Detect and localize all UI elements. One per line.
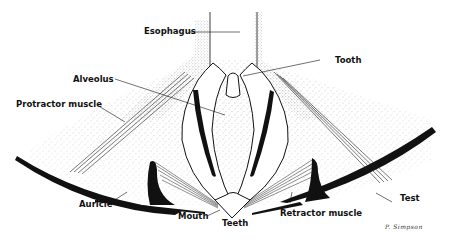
label-mouth: Mouth — [178, 212, 208, 221]
artist-signature: P. Simpson — [385, 223, 423, 230]
label-tooth: Tooth — [335, 56, 361, 65]
label-retractor-muscle: Retractor muscle — [280, 209, 362, 218]
esophagus — [210, 12, 257, 68]
label-alveolus: Alveolus — [73, 75, 114, 84]
label-test: Test — [400, 194, 420, 203]
lantern-diagram: Esophagus Tooth Alveolus Protractor musc… — [0, 0, 450, 244]
label-protractor-muscle: Protractor muscle — [16, 100, 102, 109]
diagram-drawing — [0, 0, 450, 244]
label-esophagus: Esophagus — [144, 27, 196, 36]
label-auricle: Auricle — [79, 200, 112, 209]
label-teeth: Teeth — [222, 219, 248, 228]
